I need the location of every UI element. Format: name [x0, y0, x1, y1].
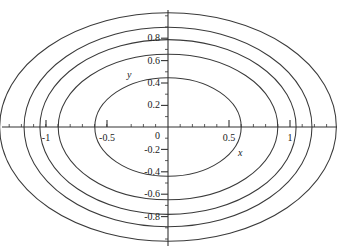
y-tick-label--0.6: -0.6 — [120, 189, 160, 199]
contour-plot-canvas — [0, 0, 339, 252]
y-tick-label-0.4: 0.4 — [120, 78, 160, 88]
x-tick-label-0.5: 0.5 — [209, 133, 249, 143]
x-tick-label--0.5: -0.5 — [87, 133, 127, 143]
x-tick-label-1: 1 — [270, 133, 310, 143]
x-axis-label: x — [238, 148, 242, 158]
plot-screenshot: 0.8 0.6 0.4 0.2 -0.2 -0.4 -0.6 -0.8 0 -1… — [0, 0, 339, 252]
y-tick-label--0.2: -0.2 — [120, 145, 160, 155]
y-tick-label-0.2: 0.2 — [120, 100, 160, 110]
y-tick-label--0.4: -0.4 — [120, 167, 160, 177]
x-tick-label--1: -1 — [26, 133, 66, 143]
y-tick-label--0.8: -0.8 — [120, 212, 160, 222]
y-tick-label-0.6: 0.6 — [120, 56, 160, 66]
y-axis-label: y — [127, 70, 131, 80]
y-tick-label-0.8: 0.8 — [120, 33, 160, 43]
